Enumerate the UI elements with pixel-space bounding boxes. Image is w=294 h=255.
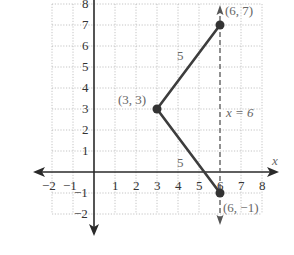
segment-lower-length-label: 5 [177,155,184,170]
x-tick: 2 [133,178,140,193]
segment-upper [157,25,220,109]
point-label-6-7: (6, 7) [225,3,253,18]
symmetry-label: x = 6 [225,105,254,120]
point-6-7 [216,21,225,30]
y-tick-labels: 8 7 6 5 4 3 2 1 −1 −2 [74,0,89,221]
y-tick: 3 [82,101,89,116]
x-tick: 1 [112,178,119,193]
point-3-3 [153,105,162,114]
point-label-3-3: (3, 3) [118,92,146,107]
point-label-6-neg1: (6, −1) [223,200,259,215]
y-tick: −2 [74,206,88,221]
segment-upper-length-label: 5 [177,48,184,63]
graph-svg: x = 6 5 5 (6, 7) (3, 3) (6, −1) −2 −1 1 … [0,0,294,255]
x-tick: 7 [238,178,245,193]
x-tick: −2 [42,178,56,193]
x-tick: 8 [259,178,266,193]
x-tick: 3 [154,178,161,193]
x-tick: 4 [175,178,182,193]
x-tick: 5 [196,178,203,193]
x-tick: 6 [217,178,224,193]
x-axis-label: x [271,153,278,168]
segment-lower [157,109,220,193]
symmetry-up-arrow-icon [217,5,224,15]
y-tick: 1 [82,143,89,158]
y-tick: 7 [82,17,89,32]
coordinate-plane-figure: x = 6 5 5 (6, 7) (3, 3) (6, −1) −2 −1 1 … [0,0,294,255]
y-tick: 5 [82,59,89,74]
y-tick: 4 [82,80,89,95]
y-tick: −1 [74,185,88,200]
y-tick: 2 [82,122,89,137]
segments: 5 5 [157,25,220,193]
y-tick: 6 [82,38,89,53]
y-tick: 8 [82,0,89,11]
